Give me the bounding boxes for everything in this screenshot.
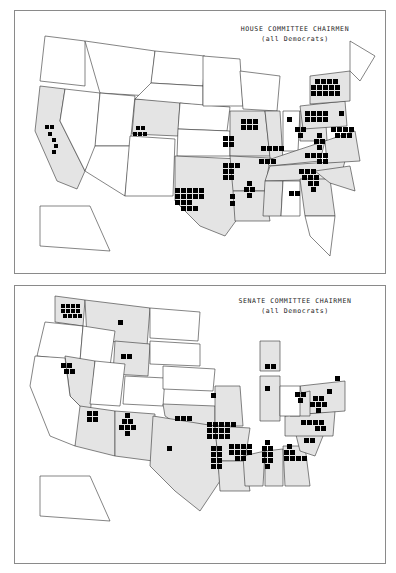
house-us-map <box>15 11 385 273</box>
house-map-panel: HOUSE COMMITTEE CHAIRMEN (all Democrats) <box>14 10 386 274</box>
senate-map-panel: SENATE COMMITTEE CHAIRMEN (all Democrats… <box>14 285 386 564</box>
senate-us-map <box>15 286 385 563</box>
